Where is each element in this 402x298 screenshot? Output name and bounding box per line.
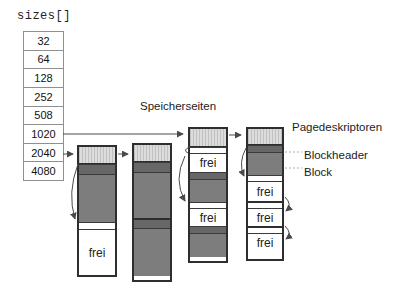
free-block: frei	[248, 233, 282, 252]
block-header-label: Blockheader	[304, 149, 368, 161]
free-block: frei	[248, 181, 282, 201]
size-row-4080: 4080	[24, 161, 63, 180]
freelist-arc-page4-right-2	[285, 226, 289, 239]
allocated-block	[248, 152, 282, 175]
size-row-1020: 1020	[24, 124, 63, 143]
allocated-block	[134, 172, 170, 218]
allocated-block	[134, 228, 170, 276]
block-header	[190, 226, 226, 233]
page-descriptor	[134, 145, 170, 162]
block-header	[134, 218, 170, 228]
page-descriptor	[190, 129, 226, 147]
page-descriptors-label: Pagedeskriptoren	[292, 121, 382, 133]
free-block: frei	[190, 208, 226, 226]
block-header	[79, 164, 115, 174]
allocated-block	[79, 174, 115, 222]
sizes-table: 32 64 128 252 508 1020 2040 4080	[23, 31, 64, 181]
free-block: frei	[190, 153, 226, 172]
free-block-header	[248, 226, 282, 233]
size-row-32: 32	[24, 32, 63, 50]
page-descriptor	[248, 129, 282, 145]
size-row-2040: 2040	[24, 143, 63, 162]
size-row-64: 64	[24, 50, 63, 69]
size-row-252: 252	[24, 87, 63, 106]
memory-page-1020-second: frei frei frei	[246, 127, 284, 261]
memory-allocation-diagram: sizes[] 32 64 128 252 508 1020 2040 4080…	[0, 0, 402, 298]
sizes-array-label: sizes[]	[17, 9, 71, 23]
free-block: frei	[248, 208, 282, 226]
size-row-508: 508	[24, 106, 63, 125]
free-block-header	[79, 222, 115, 229]
free-block-header	[248, 201, 282, 208]
free-block: frei	[79, 229, 115, 275]
freelist-arc-page3	[179, 156, 185, 201]
block-label: Block	[304, 166, 332, 178]
block-header	[190, 172, 226, 179]
page-descriptor	[79, 147, 115, 164]
memory-page-2040-second	[132, 143, 172, 282]
memory-pages-label: Speicherseiten	[140, 100, 216, 112]
allocated-block	[190, 179, 226, 202]
size-row-128: 128	[24, 68, 63, 87]
block-header	[248, 145, 282, 152]
memory-page-2040-first: frei	[77, 145, 117, 277]
block-header	[134, 162, 170, 172]
memory-page-1020-first: frei frei	[188, 127, 228, 263]
allocated-block	[190, 233, 226, 257]
freelist-arc-page4-right-1	[285, 197, 289, 211]
